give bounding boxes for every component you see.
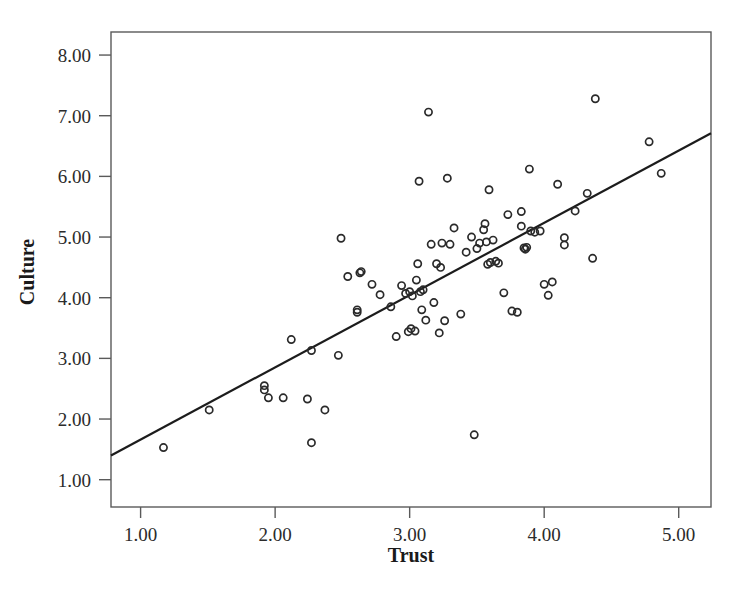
y-tick-label-3.00: 3.00 (58, 348, 91, 369)
scatter-chart: 1.002.003.004.005.00 1.002.003.004.005.0… (0, 0, 745, 590)
y-tick-label-7.00: 7.00 (58, 106, 91, 127)
y-tick-label-4.00: 4.00 (58, 288, 91, 309)
chart-canvas: 1.002.003.004.005.00 1.002.003.004.005.0… (0, 0, 745, 590)
x-axis-title: Trust (388, 544, 435, 566)
x-tick-label-1.00: 1.00 (124, 524, 157, 545)
x-tick-label-5.00: 5.00 (662, 524, 695, 545)
y-axis-title: Culture (16, 239, 38, 305)
x-tick-label-2.00: 2.00 (259, 524, 292, 545)
chart-background (0, 0, 745, 590)
y-tick-label-5.00: 5.00 (58, 227, 91, 248)
y-tick-label-6.00: 6.00 (58, 166, 91, 187)
x-tick-label-3.00: 3.00 (393, 524, 426, 545)
y-tick-label-1.00: 1.00 (58, 470, 91, 491)
y-tick-label-8.00: 8.00 (58, 45, 91, 66)
x-tick-label-4.00: 4.00 (528, 524, 561, 545)
y-tick-label-2.00: 2.00 (58, 409, 91, 430)
